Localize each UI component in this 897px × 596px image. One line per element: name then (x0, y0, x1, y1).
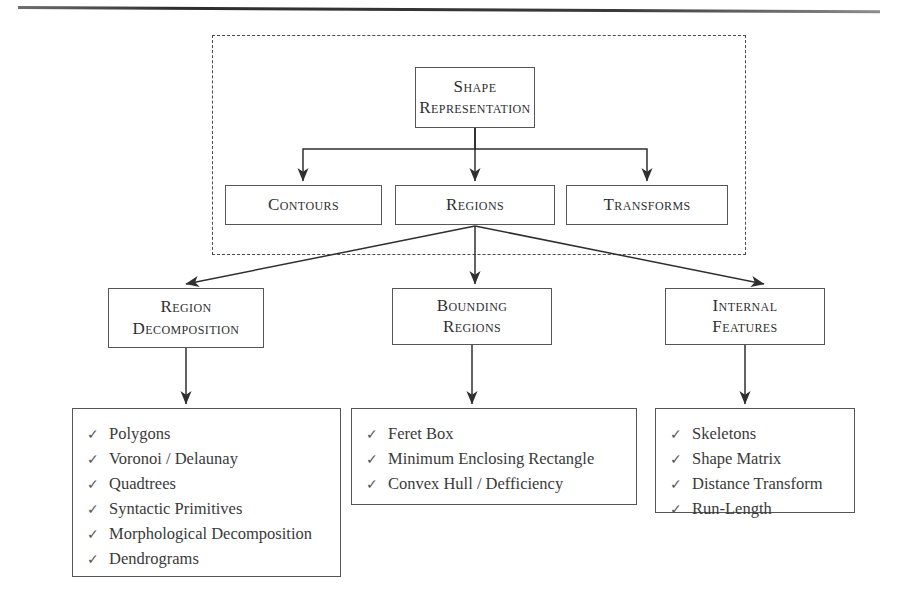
list-item-label: Convex Hull / Defficiency (388, 471, 563, 496)
node-internal-features-line-1: Internal (713, 296, 778, 316)
list-item-label: Run-Length (692, 496, 772, 521)
node-region-decomposition-line-2: Decomposition (133, 319, 240, 339)
node-bounding-regions-line-1: Bounding (437, 296, 508, 316)
check-icon: ✓ (366, 449, 388, 470)
node-regions-label: Regions (446, 195, 504, 215)
list-item[interactable]: ✓ Minimum Enclosing Rectangle (366, 446, 626, 471)
check-icon: ✓ (670, 474, 692, 495)
check-icon: ✓ (87, 424, 109, 445)
list-bounding-regions-methods: ✓ Feret Box ✓ Minimum Enclosing Rectangl… (351, 408, 637, 505)
node-internal-features-line-2: Features (712, 317, 777, 337)
check-icon: ✓ (87, 449, 109, 470)
list-item-label: Quadtrees (109, 471, 176, 496)
check-icon: ✓ (87, 549, 109, 570)
list-item-label: Dendrograms (109, 546, 199, 571)
list-item[interactable]: ✓ Dendrograms (87, 546, 330, 571)
list-item-label: Shape Matrix (692, 446, 781, 471)
list-region-decomposition-items: ✓ Polygons ✓ Voronoi / Delaunay ✓ Quadtr… (87, 421, 330, 571)
list-item[interactable]: ✓ Morphological Decomposition (87, 521, 330, 546)
list-item[interactable]: ✓ Syntactic Primitives (87, 496, 330, 521)
list-item[interactable]: ✓ Run-Length (670, 496, 844, 521)
diagram-canvas: Shape Representation Contours Regions Tr… (0, 0, 897, 596)
node-bounding-regions-line-2: Regions (443, 317, 501, 337)
list-item-label: Voronoi / Delaunay (109, 446, 238, 471)
node-internal-features[interactable]: Internal Features (665, 288, 825, 345)
node-bounding-regions[interactable]: Bounding Regions (392, 288, 552, 345)
check-icon: ✓ (670, 424, 692, 445)
check-icon: ✓ (366, 474, 388, 495)
list-internal-features-items: ✓ Skeletons ✓ Shape Matrix ✓ Distance Tr… (670, 421, 844, 521)
check-icon: ✓ (87, 474, 109, 495)
list-item[interactable]: ✓ Polygons (87, 421, 330, 446)
node-contours[interactable]: Contours (225, 185, 382, 225)
node-contours-label: Contours (268, 195, 339, 215)
list-item-label: Feret Box (388, 421, 454, 446)
node-region-decomposition-line-1: Region (160, 297, 211, 317)
node-transforms[interactable]: Transforms (566, 185, 728, 225)
list-item-label: Polygons (109, 421, 170, 446)
check-icon: ✓ (366, 424, 388, 445)
list-item-label: Morphological Decomposition (109, 521, 312, 546)
node-region-decomposition[interactable]: Region Decomposition (108, 288, 264, 348)
list-item[interactable]: ✓ Feret Box (366, 421, 626, 446)
list-item[interactable]: ✓ Convex Hull / Defficiency (366, 471, 626, 496)
check-icon: ✓ (670, 449, 692, 470)
list-item[interactable]: ✓ Skeletons (670, 421, 844, 446)
page-top-rule (18, 6, 880, 13)
list-item-label: Skeletons (692, 421, 756, 446)
list-bounding-regions-items: ✓ Feret Box ✓ Minimum Enclosing Rectangl… (366, 421, 626, 496)
list-item[interactable]: ✓ Distance Transform (670, 471, 844, 496)
list-item-label: Syntactic Primitives (109, 496, 242, 521)
node-shape-representation-line-2: Representation (419, 98, 530, 118)
node-transforms-label: Transforms (603, 195, 690, 215)
node-shape-representation-line-1: Shape (454, 77, 497, 97)
node-shape-representation[interactable]: Shape Representation (415, 67, 535, 128)
list-region-decomposition-methods: ✓ Polygons ✓ Voronoi / Delaunay ✓ Quadtr… (72, 408, 341, 577)
list-item[interactable]: ✓ Shape Matrix (670, 446, 844, 471)
check-icon: ✓ (87, 499, 109, 520)
list-item-label: Distance Transform (692, 471, 823, 496)
node-regions[interactable]: Regions (395, 185, 555, 225)
list-internal-features-methods: ✓ Skeletons ✓ Shape Matrix ✓ Distance Tr… (655, 408, 855, 513)
check-icon: ✓ (670, 499, 692, 520)
list-item[interactable]: ✓ Voronoi / Delaunay (87, 446, 330, 471)
check-icon: ✓ (87, 524, 109, 545)
list-item-label: Minimum Enclosing Rectangle (388, 446, 594, 471)
list-item[interactable]: ✓ Quadtrees (87, 471, 330, 496)
